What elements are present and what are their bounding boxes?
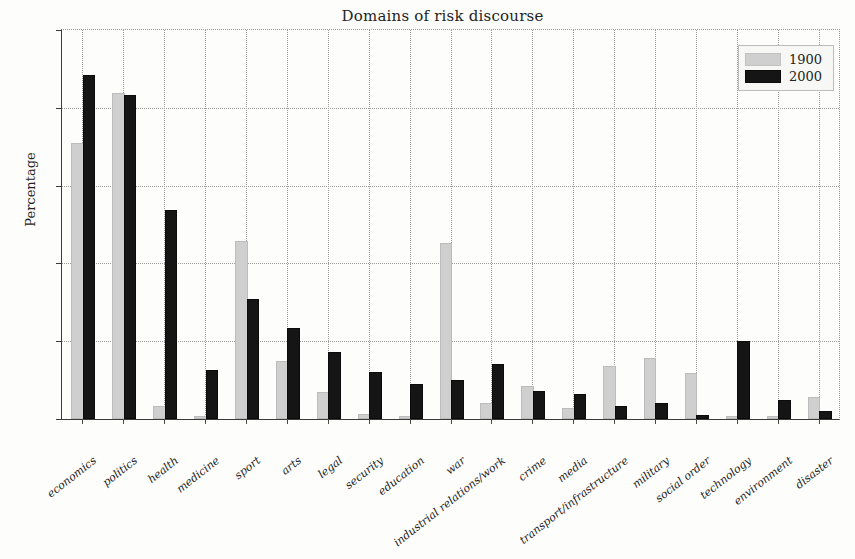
x-tick-mark: [532, 419, 533, 424]
legend-swatch-1900-icon: [745, 53, 781, 66]
bar-2000-industrial-relations-work: [492, 364, 505, 419]
x-gridline: [696, 30, 697, 419]
x-tick-label: health: [146, 454, 182, 486]
x-tick-mark: [696, 419, 697, 424]
y-tick-mark: [56, 30, 62, 31]
bar-2000-education: [410, 384, 423, 419]
x-tick-label: arts: [279, 454, 304, 478]
bar-2000-sport: [247, 299, 260, 419]
bar-2000-disaster: [819, 411, 832, 419]
x-tick-mark: [491, 419, 492, 424]
bar-2000-social-order: [696, 415, 709, 419]
x-tick-mark: [328, 419, 329, 424]
chart-legend: 1900 2000: [738, 45, 834, 91]
bar-2000-transport-infrastructure: [615, 406, 628, 419]
bar-2000-legal: [328, 352, 341, 419]
y-tick-mark: [56, 108, 62, 109]
y-tick-mark: [56, 263, 62, 264]
legend-item-1900: 1900: [745, 51, 827, 68]
bar-2000-security: [369, 372, 382, 419]
x-tick-label: war: [443, 454, 468, 477]
figure-canvas: Domains of risk discourse Percentage 051…: [0, 0, 855, 559]
x-tick-label: medicine: [174, 454, 222, 496]
y-tick-mark: [56, 419, 62, 420]
x-tick-mark: [410, 419, 411, 424]
legend-swatch-2000-icon: [745, 70, 781, 83]
x-tick-mark: [655, 419, 656, 424]
x-gridline: [369, 30, 370, 419]
bar-2000-economics: [83, 75, 96, 419]
bar-2000-arts: [287, 328, 300, 419]
bar-2000-war: [451, 380, 464, 419]
x-tick-mark: [778, 419, 779, 424]
y-tick-mark: [56, 186, 62, 187]
x-tick-label: legal: [315, 454, 344, 481]
x-gridline: [573, 30, 574, 419]
x-gridline: [614, 30, 615, 419]
x-tick-label: politics: [100, 454, 140, 489]
x-tick-mark: [573, 419, 574, 424]
bar-2000-medicine: [206, 370, 219, 419]
x-tick-label: crime: [516, 454, 549, 484]
x-tick-mark: [614, 419, 615, 424]
bar-2000-military: [655, 403, 668, 419]
bar-2000-technology: [737, 341, 750, 419]
page-title: Domains of risk discourse: [0, 7, 855, 25]
x-tick-mark: [369, 419, 370, 424]
bar-2000-health: [165, 210, 178, 419]
x-tick-label: sport: [232, 454, 263, 482]
bar-2000-environment: [778, 400, 791, 419]
x-gridline: [205, 30, 206, 419]
x-tick-mark: [164, 419, 165, 424]
bar-2000-crime: [533, 391, 546, 419]
x-tick-mark: [451, 419, 452, 424]
plot-area: 0510152025economicspoliticshealthmedicin…: [61, 29, 840, 420]
x-tick-mark: [819, 419, 820, 424]
y-tick-mark: [56, 341, 62, 342]
bar-2000-politics: [124, 95, 137, 419]
x-tick-mark: [82, 419, 83, 424]
x-tick-label: disaster: [792, 454, 835, 492]
x-gridline: [532, 30, 533, 419]
x-tick-mark: [246, 419, 247, 424]
bar-2000-media: [574, 394, 587, 419]
legend-label-1900: 1900: [789, 52, 822, 67]
x-tick-mark: [287, 419, 288, 424]
y-axis-label: Percentage: [23, 130, 38, 250]
legend-label-2000: 2000: [789, 69, 822, 84]
x-tick-label: economics: [45, 454, 99, 500]
x-tick-label: media: [555, 454, 590, 485]
x-gridline: [491, 30, 492, 419]
legend-item-2000: 2000: [745, 68, 827, 85]
x-tick-mark: [123, 419, 124, 424]
x-tick-mark: [737, 419, 738, 424]
bar-1900-social-order: [685, 373, 698, 419]
x-tick-mark: [205, 419, 206, 424]
x-gridline: [410, 30, 411, 419]
